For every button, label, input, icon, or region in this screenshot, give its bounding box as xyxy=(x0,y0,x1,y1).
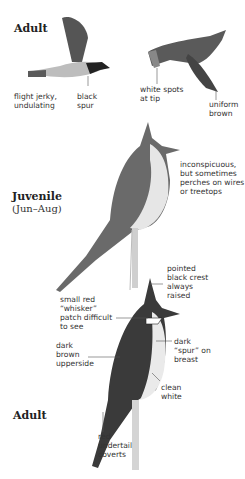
note-flight-jerky: flight jerky, undulating xyxy=(14,92,57,110)
note-inconspicuous: inconspicuous, but sometimes perches on … xyxy=(180,160,244,196)
note-uniform-brown: uniform brown xyxy=(209,100,238,118)
note-dark-upperside: dark brown upperside xyxy=(56,341,94,368)
section-label-adult-perched: Adult xyxy=(13,409,46,422)
bird-illustrations xyxy=(0,0,245,479)
note-whisker: small red “whisker” patch difficult to s… xyxy=(60,295,112,331)
note-dark-spur: dark “spur” on breast xyxy=(174,337,211,364)
note-pointed-crest: pointed black crest always raised xyxy=(167,264,208,300)
section-label-adult-flight: Adult xyxy=(14,22,47,35)
section-label-juvenile: Juvenile xyxy=(12,190,62,203)
note-red-undertail: red undertail coverts xyxy=(98,432,132,459)
note-clean-white: clean white xyxy=(161,383,182,401)
section-sublabel-juvenile: (Jun–Aug) xyxy=(12,203,62,214)
juvenile-bird-icon xyxy=(56,122,180,292)
note-black-spur: black spur xyxy=(77,92,97,110)
note-white-spots: white spots at tip xyxy=(140,85,184,103)
